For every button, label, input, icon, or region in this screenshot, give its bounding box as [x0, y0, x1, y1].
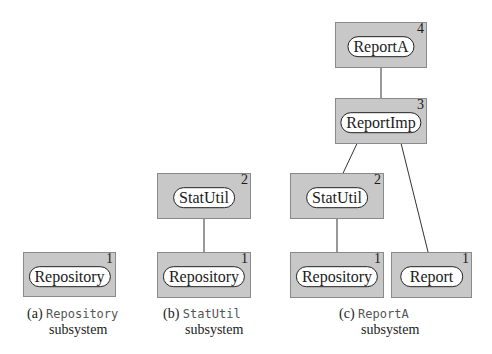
level-number: 1	[241, 251, 248, 267]
caption-suffix: subsystem	[27, 322, 118, 338]
component-label: Report	[400, 266, 464, 287]
component-box-c-repository: 1 Repository	[290, 252, 384, 298]
caption-label: (c)	[339, 306, 355, 321]
caption-c: (c) ReportA subsystem	[339, 306, 419, 338]
caption-name: Repository	[46, 307, 118, 321]
component-label: StatUtil	[306, 187, 368, 208]
component-label: StatUtil	[173, 187, 235, 208]
level-number: 1	[106, 251, 113, 267]
caption-name: StatUtil	[183, 307, 241, 321]
caption-label: (a)	[27, 306, 43, 321]
component-label: Repository	[28, 266, 110, 287]
component-box-b-repository: 1 Repository	[157, 252, 251, 298]
caption-suffix: subsystem	[339, 322, 419, 338]
level-number: 1	[374, 251, 381, 267]
component-label: ReportImp	[340, 112, 421, 133]
component-label: Repository	[163, 266, 245, 287]
level-number: 1	[462, 251, 469, 267]
component-label: Repository	[296, 266, 378, 287]
caption-a: (a) Repository subsystem	[27, 306, 118, 338]
caption-name: ReportA	[358, 307, 409, 321]
level-number: 2	[241, 172, 248, 188]
level-number: 3	[417, 97, 424, 113]
component-box-a-repository: 1 Repository	[23, 252, 116, 297]
caption-b: (b) StatUtil subsystem	[163, 306, 243, 338]
level-number: 2	[374, 172, 381, 188]
link-c-reportimp-report	[398, 131, 431, 264]
component-label: ReportA	[347, 36, 414, 57]
component-box-c-reportimp: 3 ReportImp	[335, 98, 427, 144]
caption-suffix: subsystem	[163, 322, 243, 338]
component-box-c-report: 1 Report	[391, 252, 472, 298]
caption-label: (b)	[163, 306, 179, 321]
component-box-c-statutil: 2 StatUtil	[290, 173, 384, 219]
level-number: 4	[417, 21, 424, 37]
component-box-b-statutil: 2 StatUtil	[157, 173, 251, 219]
component-box-c-reporta: 4 ReportA	[335, 22, 427, 68]
